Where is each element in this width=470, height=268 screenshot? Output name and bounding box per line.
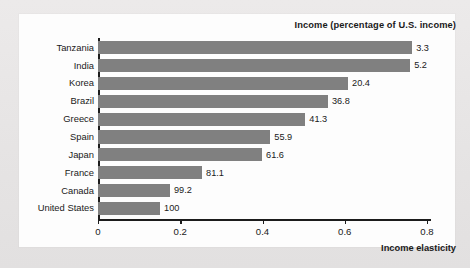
category-label-wrapper: Canada [0,182,94,200]
category-label-wrapper: Japan [0,146,94,164]
bar-value-label: 100 [164,201,179,215]
category-label-wrapper: Tanzania [0,39,94,57]
category-label: United States [2,201,94,215]
category-label: Japan [2,148,94,162]
bar [98,184,170,197]
x-tick-label: 0.8 [420,226,433,237]
bar-value-label: 61.6 [266,148,284,162]
category-label-wrapper: Korea [0,75,94,93]
bar-value-label: 55.9 [274,130,292,144]
category-label-wrapper: Greece [0,110,94,128]
category-label-wrapper: India [0,57,94,75]
figure-container: Income (percentage of U.S. income) Tanza… [0,0,470,268]
bar-row: 81.1 [98,164,470,182]
bar-row: 55.9 [98,128,470,146]
category-label-wrapper: Spain [0,128,94,146]
bar-value-label: 99.2 [174,183,192,197]
x-tick-label: 0 [95,226,100,237]
bar [98,95,328,108]
bar-value-label: 81.1 [206,166,224,180]
bar-value-label: 41.3 [309,112,327,126]
bar-value-label: 36.8 [332,94,350,108]
bar-row: 61.6 [98,146,470,164]
category-label-wrapper: United States [0,200,94,218]
category-label: Greece [2,112,94,126]
x-tick-mark [263,219,264,224]
category-label-wrapper: Brazil [0,93,94,111]
bar-row: 36.8 [98,93,470,111]
bar-row: 5.2 [98,57,470,75]
bar [98,113,305,126]
chart-title: Income (percentage of U.S. income) [295,20,456,30]
category-label: India [2,59,94,73]
x-axis-label: Income elasticity [381,243,456,253]
x-tick-label: 0.6 [338,226,351,237]
bar-row: 99.2 [98,182,470,200]
category-label: Tanzania [2,41,94,55]
bar [98,202,160,215]
bar [98,41,412,54]
x-tick-mark [427,219,428,224]
category-label: Spain [2,130,94,144]
bar-value-label: 20.4 [352,76,370,90]
category-label: Canada [2,184,94,198]
category-label: Korea [2,76,94,90]
bar [98,166,202,179]
category-label-wrapper: France [0,164,94,182]
x-axis-line [98,219,431,221]
x-tick-mark [180,219,181,224]
bar [98,59,410,72]
x-tick-label: 0.4 [256,226,269,237]
bar-row: 41.3 [98,110,470,128]
x-tick-mark [98,219,99,224]
x-tick-label: 0.2 [174,226,187,237]
x-tick-mark [345,219,346,224]
bar-row: 20.4 [98,75,470,93]
bar-value-label: 5.2 [414,58,427,72]
category-label: France [2,166,94,180]
bar [98,77,348,90]
bar [98,130,270,143]
bar-row: 100 [98,200,470,218]
category-label: Brazil [2,94,94,108]
bar-value-label: 3.3 [416,41,429,55]
bar [98,148,262,161]
bar-row: 3.3 [98,39,470,57]
